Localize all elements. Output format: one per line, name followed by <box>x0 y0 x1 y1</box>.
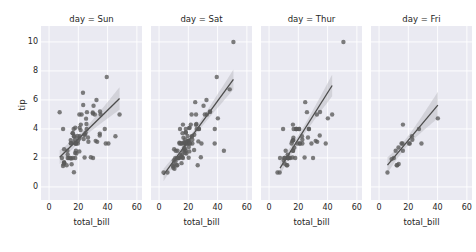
x-tick-label: 60 <box>127 204 147 212</box>
x-tick-label: 40 <box>318 204 338 212</box>
data-point <box>282 156 286 160</box>
x-tick-label: 20 <box>68 204 88 212</box>
data-point <box>71 127 75 131</box>
data-point <box>417 127 421 131</box>
y-tick-label: 2 <box>12 154 38 162</box>
data-point <box>216 116 220 120</box>
data-point <box>389 157 393 161</box>
data-point <box>77 126 81 130</box>
data-point <box>81 91 85 95</box>
data-point <box>291 149 295 153</box>
y-tick-label: 4 <box>12 125 38 133</box>
data-point <box>293 156 297 160</box>
data-point <box>396 162 400 166</box>
panel-title-thur: day = Thur <box>261 12 362 26</box>
data-point <box>298 141 302 145</box>
data-point <box>94 98 98 102</box>
data-point <box>72 134 76 138</box>
facet-panel-thur[interactable] <box>261 26 362 200</box>
y-axis-ticks: 0246810 <box>8 0 38 252</box>
data-point <box>212 141 216 145</box>
panel-title-fri: day = Fri <box>371 12 472 26</box>
data-point <box>288 156 292 160</box>
x-tick-label: 0 <box>369 204 389 212</box>
x-axis-label: total_bill <box>151 216 252 228</box>
data-point <box>303 100 307 104</box>
data-point <box>117 112 121 116</box>
lmplot-figure: tip 0246810 day = Sun0204060total_billda… <box>0 0 476 252</box>
data-point <box>190 134 194 138</box>
data-point <box>396 145 400 149</box>
data-point <box>419 141 423 145</box>
data-point <box>401 149 405 153</box>
data-point <box>98 109 102 113</box>
data-point <box>181 135 185 139</box>
data-point <box>196 163 200 167</box>
data-point <box>186 156 190 160</box>
x-tick-label: 60 <box>237 204 257 212</box>
data-point <box>86 135 90 139</box>
data-point <box>281 127 285 131</box>
data-point <box>326 116 330 120</box>
data-point <box>201 104 205 108</box>
x-tick-label: 0 <box>39 204 59 212</box>
data-point <box>318 110 322 114</box>
data-point <box>64 163 68 167</box>
data-point <box>291 127 295 131</box>
x-tick-label: 60 <box>457 204 476 212</box>
data-point <box>165 170 169 174</box>
regression-line <box>60 98 120 157</box>
facet-panel-fri[interactable] <box>371 26 472 200</box>
data-point <box>84 122 88 126</box>
data-point <box>385 170 389 174</box>
facet-panel-sun[interactable] <box>41 26 142 200</box>
data-point <box>309 141 313 145</box>
y-tick-label: 10 <box>12 38 38 46</box>
x-axis-label: total_bill <box>261 216 362 228</box>
data-point <box>410 138 414 142</box>
scatter-points <box>385 116 440 174</box>
data-point <box>324 141 328 145</box>
data-point <box>290 139 294 143</box>
data-point <box>95 140 99 144</box>
data-point <box>179 161 183 165</box>
x-tick-label: 0 <box>149 204 169 212</box>
scatter-points <box>161 40 235 175</box>
panel-title-sun: day = Sun <box>41 12 142 26</box>
data-point <box>161 170 165 174</box>
data-point <box>192 148 196 152</box>
x-tick-label: 40 <box>428 204 448 212</box>
confidence-band <box>387 92 437 173</box>
x-tick-label: 20 <box>398 204 418 212</box>
plot-canvas <box>151 26 252 200</box>
plot-canvas <box>261 26 362 200</box>
facet-panel-sat[interactable] <box>151 26 252 200</box>
data-point <box>60 156 64 160</box>
data-point <box>86 140 90 144</box>
data-point <box>300 138 304 142</box>
data-point <box>73 156 77 160</box>
data-point <box>282 161 286 165</box>
data-point <box>91 110 95 114</box>
data-point <box>199 141 203 145</box>
data-point <box>330 112 334 116</box>
data-point <box>401 122 405 126</box>
scatter-points <box>275 40 345 175</box>
data-point <box>305 110 309 114</box>
data-point <box>180 155 184 159</box>
data-point <box>204 98 208 102</box>
data-point <box>187 126 191 130</box>
data-point <box>231 40 235 44</box>
data-point <box>407 141 411 145</box>
data-point <box>176 156 180 160</box>
data-point <box>181 122 185 126</box>
data-point <box>189 112 193 116</box>
panel-title-sat: day = Sat <box>151 12 252 26</box>
data-point <box>57 110 61 114</box>
data-point <box>307 127 311 131</box>
data-point <box>103 127 107 131</box>
data-point <box>291 122 295 126</box>
x-axis-label: total_bill <box>41 216 142 228</box>
data-point <box>69 162 73 166</box>
x-tick-label: 40 <box>98 204 118 212</box>
